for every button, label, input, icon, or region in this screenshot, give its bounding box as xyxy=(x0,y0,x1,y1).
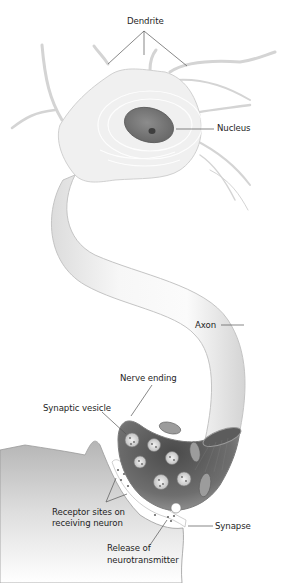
label-receptor-sites-line2: receiving neuron xyxy=(52,518,123,529)
neuron-diagram xyxy=(0,0,283,583)
axon-shape xyxy=(51,175,245,440)
label-nerve-ending: Nerve ending xyxy=(120,373,177,384)
label-release-line1: Release of xyxy=(107,543,151,554)
nucleolus-shape xyxy=(149,128,156,134)
label-synaptic-vesicle: Synaptic vesicle xyxy=(43,403,111,414)
label-release-line2: neurotransmitter xyxy=(107,555,179,566)
label-receptor-sites-line1: Receptor sites on xyxy=(52,507,125,518)
label-dendrite: Dendrite xyxy=(127,16,164,27)
label-axon: Axon xyxy=(195,320,216,331)
label-synapse: Synapse xyxy=(215,521,251,532)
label-nucleus: Nucleus xyxy=(217,123,251,134)
